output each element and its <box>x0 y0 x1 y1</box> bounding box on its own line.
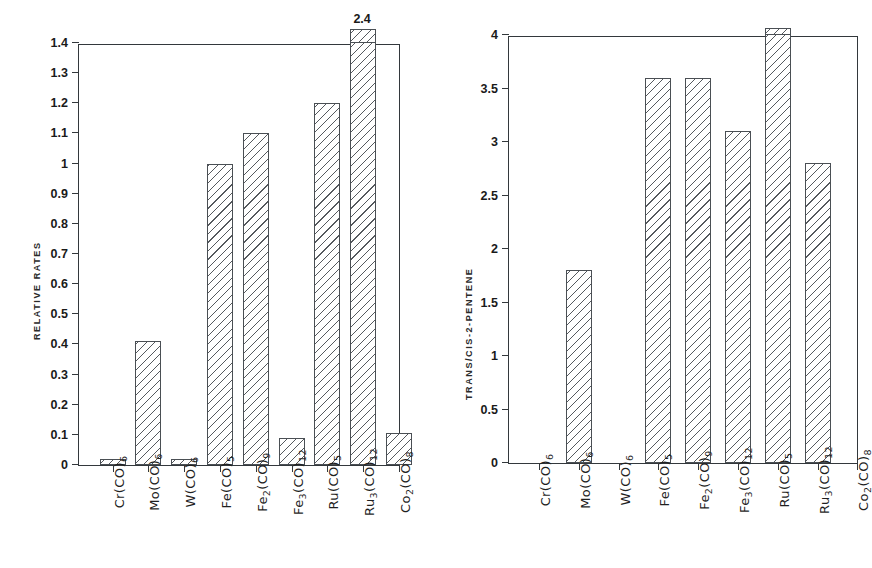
y-axis-tick: 3.5 <box>502 88 509 89</box>
x-axis-category-label: W(CO)6 <box>618 455 635 506</box>
y-axis-tick: 1.5 <box>502 302 509 303</box>
y-axis-tick-label: 1 <box>491 349 498 363</box>
y-axis-tick-label: 0 <box>491 456 498 470</box>
x-axis-category-label: Ru3(CO)12 <box>817 446 834 514</box>
y-axis-title-right: TRANS/CIS-2-PENTENE <box>464 268 474 400</box>
bar-overflow-segment <box>350 29 376 43</box>
x-axis-category-label: Fe2(CO)9 <box>255 452 272 512</box>
plot-area-left: 00.10.20.30.40.50.60.70.80.911.11.21.31.… <box>78 44 400 466</box>
x-axis-category-label: Fe3(CO)12 <box>737 447 754 513</box>
bar <box>566 270 592 463</box>
bar <box>765 35 791 463</box>
bar <box>135 341 161 465</box>
y-axis-tick-label: 1.2 <box>51 96 68 110</box>
y-axis-tick: 0.2 <box>72 404 79 405</box>
y-axis-title-left: RELATIVE RATES <box>32 241 42 340</box>
y-axis-tick: 0.7 <box>72 253 79 254</box>
x-axis-category-label: W(CO)6 <box>183 457 200 508</box>
y-axis-tick-label: 0.1 <box>51 428 68 442</box>
y-axis-tick: 2.5 <box>502 195 509 196</box>
y-axis-tick: 1 <box>72 163 79 164</box>
y-axis-tick: 0.4 <box>72 343 79 344</box>
y-axis-tick: 1.4 <box>72 42 79 43</box>
y-axis-tick-label: 3 <box>491 135 498 149</box>
bar <box>243 133 269 465</box>
y-axis-tick: 1 <box>502 355 509 356</box>
x-axis-category-label: Fe(CO)5 <box>219 455 236 508</box>
x-axis-category-label: Co2(CO)8 <box>398 451 415 513</box>
bar-value-annotation: 2.4 <box>353 12 370 26</box>
x-axis-category-label: Ru3(CO)12 <box>362 448 379 516</box>
x-axis-category-label: Cr(CO)6 <box>112 456 129 509</box>
bar <box>350 43 376 465</box>
y-axis-tick-label: 0.5 <box>481 403 498 417</box>
y-axis-tick-label: 1 <box>61 157 68 171</box>
y-axis-tick-label: 1.3 <box>51 66 68 80</box>
y-axis-tick: 1.3 <box>72 72 79 73</box>
y-axis-tick-label: 2.5 <box>481 189 498 203</box>
chart-panel-trans-cis: TRANS/CIS-2-PENTENE 00.511.522.533.54 Cr… <box>436 0 872 568</box>
x-axis-category-label: Ru(CO)5 <box>326 455 343 510</box>
y-axis-tick: 0 <box>502 462 509 463</box>
y-axis-tick-label: 1.4 <box>51 36 68 50</box>
y-axis-tick: 0.1 <box>72 434 79 435</box>
y-axis-tick: 2 <box>502 248 509 249</box>
x-axis-category-label: Cr(CO)6 <box>538 454 555 507</box>
y-axis-tick-label: 2 <box>491 242 498 256</box>
bar-overflow-segment <box>765 28 791 35</box>
y-axis-tick: 3 <box>502 141 509 142</box>
plot-area-right: 00.511.522.533.54 <box>508 36 858 464</box>
y-axis-tick: 4 <box>502 34 509 35</box>
chart-panel-relative-rates: RELATIVE RATES 00.10.20.30.40.50.60.70.8… <box>0 0 436 568</box>
y-axis-tick: 0 <box>72 464 79 465</box>
y-axis-tick-label: 0.3 <box>51 368 68 382</box>
y-axis-tick-label: 0.7 <box>51 247 68 261</box>
y-axis-tick: 0.8 <box>72 223 79 224</box>
x-axis-category-label: Mo(CO)6 <box>147 453 164 510</box>
bar <box>805 163 831 463</box>
y-axis-tick-label: 0.9 <box>51 187 68 201</box>
bar <box>725 131 751 463</box>
x-axis-category-label: Fe3(CO)12 <box>291 449 308 515</box>
y-axis-tick: 1.2 <box>72 102 79 103</box>
y-axis-tick-label: 0.4 <box>51 337 68 351</box>
x-axis-category-label: Co2(CO)8 <box>856 449 872 511</box>
y-axis-tick-label: 0.2 <box>51 398 68 412</box>
y-axis-tick-label: 1.1 <box>51 126 68 140</box>
y-axis-tick-label: 1.5 <box>481 296 498 310</box>
y-axis-tick-label: 0.8 <box>51 217 68 231</box>
y-axis-tick-label: 0 <box>61 458 68 472</box>
y-axis-tick-label: 3.5 <box>481 82 498 96</box>
y-axis-tick-label: 0.6 <box>51 277 68 291</box>
bar <box>207 164 233 465</box>
bar <box>685 78 711 463</box>
y-axis-tick: 0.9 <box>72 193 79 194</box>
y-axis-tick: 0.3 <box>72 374 79 375</box>
x-axis-category-label: Fe(CO)5 <box>657 453 674 506</box>
x-axis-category-label: Fe2(CO)9 <box>697 450 714 510</box>
bar <box>645 78 671 463</box>
y-axis-tick: 1.1 <box>72 132 79 133</box>
y-axis-tick: 0.5 <box>72 313 79 314</box>
x-axis-category-label: Ru(CO)5 <box>777 453 794 508</box>
x-axis-category-label: Mo(CO)6 <box>578 451 595 508</box>
y-axis-tick: 0.6 <box>72 283 79 284</box>
y-axis-tick-label: 0.5 <box>51 307 68 321</box>
y-axis-tick: 0.5 <box>502 409 509 410</box>
y-axis-tick-label: 4 <box>491 28 498 42</box>
figure-two-bar-charts: RELATIVE RATES 00.10.20.30.40.50.60.70.8… <box>0 0 872 568</box>
bar <box>314 103 340 465</box>
